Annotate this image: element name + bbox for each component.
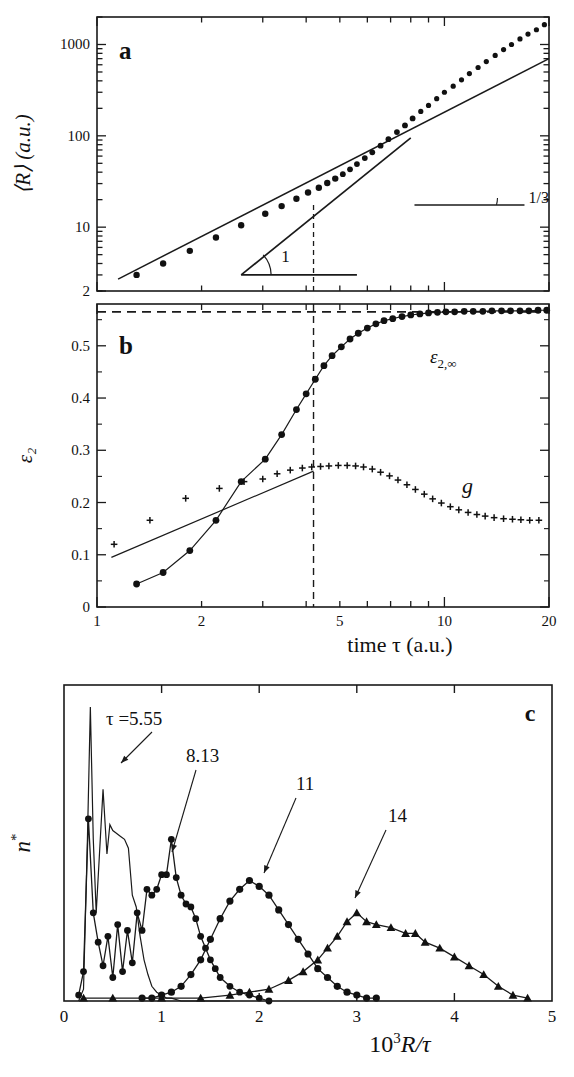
- data-point: [426, 103, 431, 108]
- data-point: [407, 312, 414, 319]
- data-point: [305, 189, 311, 195]
- data-point: [109, 974, 116, 981]
- panel-b-eps-inf-annotation: ε2,∞: [430, 346, 457, 371]
- data-point: [256, 883, 263, 890]
- data-point: [144, 886, 151, 893]
- data-point: [340, 171, 346, 177]
- data-point: [303, 390, 310, 397]
- data-point: [207, 956, 214, 963]
- panel-c-xtick-label: 4: [450, 1007, 459, 1026]
- data-point: [192, 915, 199, 922]
- panel-a-ytick-label: 10: [75, 219, 90, 235]
- panel-b-xtick-label: 2: [198, 613, 206, 629]
- panel-b-ytick-label: 0.5: [71, 338, 90, 354]
- data-point: [285, 921, 292, 928]
- data-point: [246, 877, 253, 884]
- data-point: [265, 892, 272, 899]
- data-point: [479, 308, 486, 315]
- figure-canvas: 210100100011/3a⟨R⟩ (a.u.)ε2,∞00.10.20.30…: [0, 0, 574, 1077]
- data-point: [498, 307, 505, 314]
- data-point: [85, 815, 92, 822]
- data-point: [163, 871, 170, 878]
- data-point: [489, 307, 496, 314]
- panel-b-xticks: [97, 304, 549, 607]
- data-point: [129, 959, 136, 966]
- data-point: [134, 909, 141, 916]
- data-point: [168, 989, 175, 996]
- panel-b: ε2,∞: [97, 304, 550, 607]
- panel-c-leader-tau11: [264, 798, 296, 873]
- data-point: [186, 547, 193, 554]
- data-point: [324, 180, 330, 186]
- data-point: [293, 406, 300, 413]
- panel-b-ytick-label: 0.3: [71, 442, 90, 458]
- panel-c: [75, 685, 532, 1004]
- data-point: [501, 47, 506, 52]
- panel-a-xticks: [97, 17, 549, 291]
- data-point: [507, 307, 514, 314]
- data-point: [467, 71, 472, 76]
- data-point: [275, 906, 282, 913]
- data-point: [347, 336, 354, 343]
- data-point: [394, 129, 400, 135]
- panel-b-eps2-points: [133, 307, 550, 588]
- panel-b-frame: [97, 304, 549, 607]
- data-point: [100, 962, 107, 969]
- data-point: [75, 992, 82, 999]
- data-point: [324, 974, 331, 981]
- panel-c-leader-tau14-arrowhead: [355, 890, 361, 898]
- data-point: [213, 234, 219, 240]
- panel-b-ytick-label: 0: [83, 599, 91, 615]
- data-point: [542, 22, 547, 27]
- panel-c-xtick-label: 2: [255, 1007, 264, 1026]
- data-point: [450, 953, 459, 961]
- data-point: [470, 308, 477, 315]
- data-point: [316, 185, 322, 191]
- data-point: [355, 330, 362, 337]
- data-point: [314, 965, 321, 972]
- panel-a-ylabel: ⟨R⟩ (a.u.): [11, 114, 35, 194]
- panel-a-yticks: [97, 17, 549, 291]
- data-point: [160, 260, 166, 266]
- data-point: [217, 915, 224, 922]
- data-point: [378, 143, 384, 149]
- data-point: [459, 77, 464, 82]
- data-point: [338, 343, 345, 350]
- data-point: [119, 968, 126, 975]
- panel-a: [97, 17, 549, 291]
- panel-c-label-tau14: 14: [388, 805, 408, 826]
- panel-a-slope-third-line: [118, 59, 549, 279]
- data-point: [197, 956, 204, 963]
- data-point: [525, 31, 530, 36]
- data-point: [284, 976, 293, 984]
- data-point: [475, 65, 480, 70]
- data-point: [343, 989, 350, 996]
- data-point: [381, 317, 388, 324]
- data-point: [278, 431, 285, 438]
- panel-a-label: a: [119, 37, 132, 64]
- data-point: [509, 42, 514, 47]
- data-point: [425, 309, 432, 316]
- data-point: [465, 961, 474, 969]
- panel-b-g-points: [111, 462, 542, 547]
- panel-c-ylabel: n*: [8, 834, 35, 853]
- panel-c-xlabel: 103R/τ: [369, 1030, 432, 1057]
- panel-c-points-tau813: [75, 815, 272, 1004]
- panel-c-label-tau555: τ =5.55: [106, 708, 162, 729]
- data-point: [207, 936, 214, 943]
- data-point: [416, 311, 423, 318]
- panel-b-ytick-label: 0.1: [71, 547, 90, 563]
- data-point: [451, 84, 456, 89]
- data-point: [434, 96, 439, 101]
- data-point: [153, 886, 160, 893]
- data-point: [95, 939, 102, 946]
- data-point: [217, 974, 224, 981]
- figure-root: 210100100011/3a⟨R⟩ (a.u.)ε2,∞00.10.20.30…: [0, 0, 574, 1077]
- data-point: [187, 971, 194, 978]
- data-point: [517, 36, 522, 41]
- data-point: [90, 909, 97, 916]
- data-point: [442, 90, 447, 95]
- panel-b-ylabel: ε₂: [13, 448, 37, 464]
- panel-c-xtick-label: 3: [353, 1007, 362, 1026]
- panel-a-ytick-label: 100: [68, 128, 91, 144]
